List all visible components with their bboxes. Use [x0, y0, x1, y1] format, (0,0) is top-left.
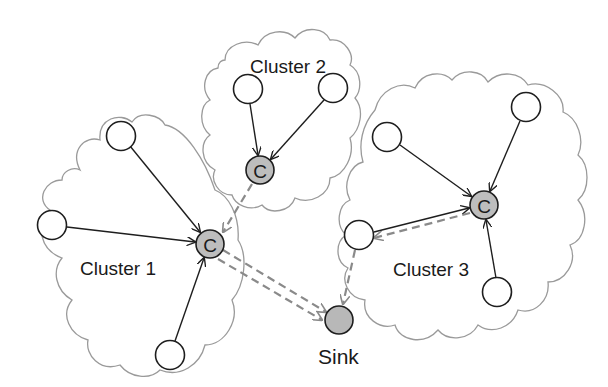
- cluster1-head-node: C: [196, 230, 224, 258]
- cluster2-label: Cluster 2: [250, 56, 326, 77]
- cluster1-head-label: C: [203, 235, 217, 256]
- cluster2-head-node: C: [246, 156, 274, 184]
- cluster3-label: Cluster 3: [393, 259, 469, 280]
- cluster1-member-node: [107, 122, 136, 151]
- cluster3-head-label: C: [477, 196, 491, 217]
- cluster3-cloud: [338, 72, 587, 340]
- cluster1-label: Cluster 1: [80, 258, 156, 279]
- cluster3-head-node: C: [470, 191, 498, 219]
- cluster3-member-node: [373, 123, 402, 152]
- cluster3-member-node: [512, 93, 541, 122]
- cluster1-member-node: [38, 211, 67, 240]
- sink-node: [325, 306, 353, 334]
- cluster3-member-node: [345, 221, 374, 250]
- cluster1-member-node: [156, 341, 185, 370]
- cluster2-member-node: [234, 75, 263, 104]
- cluster2-head-label: C: [253, 161, 267, 182]
- sink-label: Sink: [318, 345, 359, 368]
- cluster-network-diagram: C C C Cluster 1 Cluster 2 Cluster 3 Sink: [0, 0, 608, 387]
- cluster2-member-node: [319, 74, 348, 103]
- cluster3-member-node: [483, 278, 512, 307]
